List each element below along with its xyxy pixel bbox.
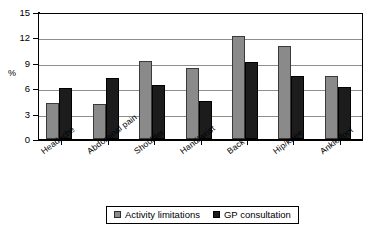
legend-label: GP consultation	[224, 209, 291, 220]
legend-label: Activity limitations	[125, 209, 200, 220]
bar-group	[232, 14, 258, 139]
bar	[232, 36, 245, 139]
bar	[186, 68, 199, 139]
chart-legend: Activity limitationsGP consultation	[106, 206, 299, 224]
legend-item: GP consultation	[213, 209, 291, 220]
gray-square-icon	[114, 211, 121, 218]
y-axis-tick-label: 15	[6, 8, 30, 18]
bar	[139, 61, 152, 139]
y-axis-tick-label: 12	[6, 33, 30, 43]
bar	[325, 76, 338, 139]
x-axis-tick	[247, 140, 248, 145]
bar	[245, 62, 258, 139]
y-axis-tick-label: 3	[6, 110, 30, 120]
plot-frame	[38, 13, 363, 140]
bar-chart: % 03691215 HeadacheAbdominal painShoulde…	[0, 0, 375, 232]
y-axis-tick-label: 0	[6, 135, 30, 145]
bar-group	[93, 14, 119, 139]
y-axis-title: %	[8, 68, 16, 78]
bar-group	[325, 14, 351, 139]
bar-group	[46, 14, 72, 139]
bar-group	[139, 14, 165, 139]
bar-group	[278, 14, 304, 139]
bar	[278, 46, 291, 139]
legend-item: Activity limitations	[114, 209, 200, 220]
y-axis-tick-label: 9	[6, 59, 30, 69]
bar-group	[186, 14, 212, 139]
black-square-icon	[213, 211, 220, 218]
plot-area	[39, 14, 362, 139]
y-axis-tick-label: 6	[6, 84, 30, 94]
